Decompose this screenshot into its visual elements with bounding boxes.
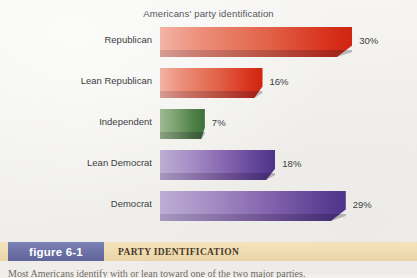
bar-bottom-shading — [160, 132, 205, 139]
bar-bottom-shading — [160, 214, 346, 221]
bar — [160, 68, 263, 98]
bar-category-label: Lean Democrat — [0, 150, 160, 176]
bar-value-label: 7% — [212, 109, 226, 137]
bar — [160, 150, 275, 180]
bar-track: 16% — [160, 68, 417, 102]
bar-row: Independent7% — [0, 109, 417, 143]
figure-number-badge: figure 6-1 — [8, 242, 104, 261]
bar-value-label: 30% — [359, 27, 378, 55]
bar-value-label: 16% — [270, 68, 289, 96]
chart: Americans' party identification Republic… — [0, 0, 417, 236]
bar-group: Republican30%Lean Republican16%Independe… — [0, 27, 417, 235]
bar-bottom-shading — [160, 91, 263, 98]
bar — [160, 191, 346, 221]
bar-track: 30% — [160, 27, 417, 61]
bar — [160, 109, 205, 139]
bar — [160, 27, 352, 57]
bar-category-label: Lean Republican — [0, 68, 160, 94]
bar-row: Republican30% — [0, 27, 417, 61]
bar-row: Democrat29% — [0, 191, 417, 225]
bar-category-label: Democrat — [0, 191, 160, 217]
bar-row: Lean Democrat18% — [0, 150, 417, 184]
bar-category-label: Independent — [0, 109, 160, 135]
bar-track: 7% — [160, 109, 417, 143]
figure-caption-text: PARTY IDENTIFICATION — [118, 242, 239, 261]
bar-bottom-shading — [160, 173, 275, 180]
body-text-sliver: Most Americans identify with or lean tow… — [8, 268, 408, 278]
bar-value-label: 18% — [282, 150, 301, 178]
bar-category-label: Republican — [0, 27, 160, 53]
bar-value-label: 29% — [353, 191, 372, 219]
bar-bottom-shading — [160, 50, 352, 57]
bar-row: Lean Republican16% — [0, 68, 417, 102]
chart-title: Americans' party identification — [0, 8, 417, 19]
bar-track: 18% — [160, 150, 417, 184]
bar-track: 29% — [160, 191, 417, 225]
